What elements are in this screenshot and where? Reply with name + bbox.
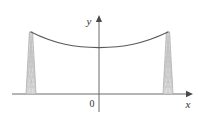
y-axis-label: y <box>86 15 92 27</box>
figure-svg: y x 0 <box>0 0 198 121</box>
figure-container: y x 0 <box>0 0 198 121</box>
origin-label: 0 <box>90 98 95 109</box>
right-arrow-icon <box>186 91 193 97</box>
x-axis-label: x <box>185 98 191 110</box>
up-arrow-icon <box>96 15 102 22</box>
